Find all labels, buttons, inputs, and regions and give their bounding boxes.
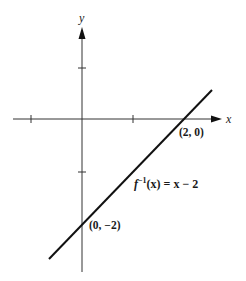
- y-axis-label: y: [78, 11, 85, 25]
- x-axis: [13, 115, 222, 123]
- x-axis-label: x: [225, 112, 232, 126]
- function-rest: (x) = x − 2: [147, 177, 199, 191]
- x-axis-arrow-icon: [211, 116, 222, 123]
- graph-svg: y x (2, 0) (0, −2) f−1(x) = x − 2: [0, 0, 246, 281]
- function-superscript: −1: [138, 176, 147, 185]
- point-label-x-intercept: (2, 0): [179, 126, 204, 139]
- y-axis: [78, 27, 86, 272]
- function-label: f−1(x) = x − 2: [134, 176, 198, 191]
- function-line: [49, 90, 212, 259]
- graph-figure: y x (2, 0) (0, −2) f−1(x) = x − 2: [0, 0, 246, 281]
- point-label-y-intercept: (0, −2): [89, 219, 121, 232]
- y-axis-arrow-icon: [79, 27, 86, 39]
